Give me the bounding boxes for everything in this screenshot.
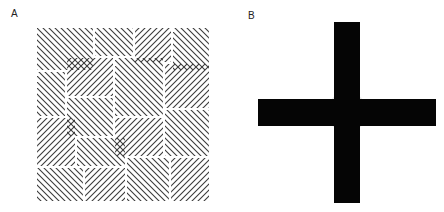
panel-b-cross-figure [258, 22, 436, 203]
figure-canvas [0, 0, 444, 212]
horizontal-bar [258, 99, 436, 126]
line-patch [37, 157, 300, 212]
line-patch [85, 157, 338, 212]
